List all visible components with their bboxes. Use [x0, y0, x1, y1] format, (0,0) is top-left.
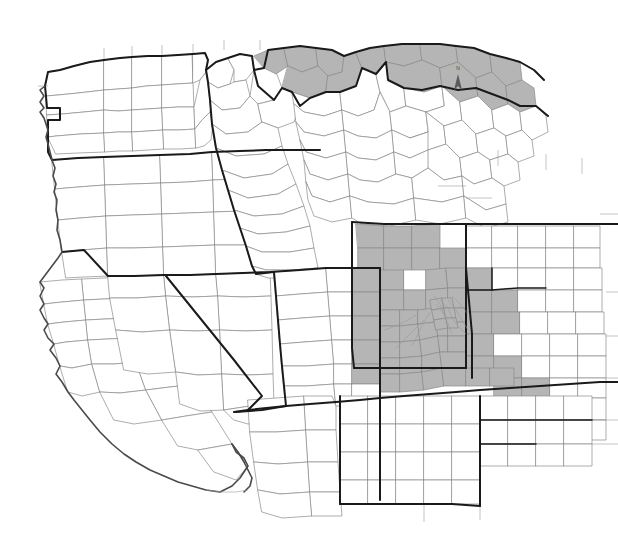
state-counties-utah	[274, 268, 380, 408]
state-counties-southern-plains	[480, 396, 592, 466]
state-counties-washington	[45, 53, 213, 154]
county-choropleth-map: N	[0, 0, 618, 536]
state-counties-newmexico	[340, 396, 480, 504]
state-counties-arizona	[248, 396, 342, 518]
north-arrow-label: N	[456, 65, 460, 71]
map-container: N	[0, 0, 618, 536]
